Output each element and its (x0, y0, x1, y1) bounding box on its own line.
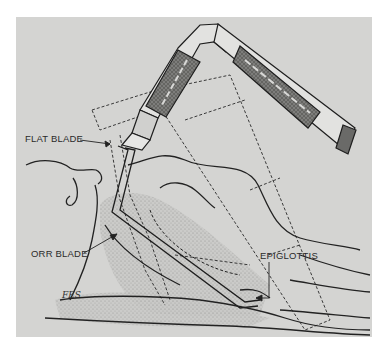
laryngoscope-handle (122, 24, 356, 154)
artist-signature: FES (62, 290, 81, 300)
laryngoscope-illustration (0, 0, 386, 350)
orr-blade-label: ORR BLADE (31, 248, 88, 259)
flat-blade-label: FLAT BLADE (25, 133, 83, 144)
epiglottis-label: EPIGLOTTIS (260, 250, 318, 261)
